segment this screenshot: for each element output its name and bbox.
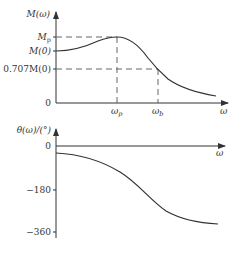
phase-x-axis-label: ω [216,148,224,158]
phase-m360-label: −360 [26,227,51,237]
magnitude-zero-label: 0 [45,98,51,108]
wp-label: ωp [111,106,123,118]
magnitude-plot: M(ω) Mp M(0) 0.707M(0) 0 ωp ωb ω [3,9,228,118]
m707-label: 0.707M(0) [3,64,51,74]
mp-label: Mp [37,32,51,44]
m0-label: M(0) [28,46,51,56]
phase-curve [56,153,218,224]
phase-y-axis-label: θ(ω)/(°) [17,125,52,135]
phase-zero-label: 0 [45,141,51,151]
magnitude-curve [56,37,216,96]
wb-label: ωb [152,106,164,118]
magnitude-y-axis-label: M(ω) [25,9,50,19]
phase-plot: θ(ω)/(°) 0 −180 −360 ω [17,125,225,238]
frequency-response-diagram: M(ω) Mp M(0) 0.707M(0) 0 ωp ωb ω θ(ω)/(°… [0,0,238,255]
phase-m180-label: −180 [26,185,51,195]
magnitude-x-axis-label: ω [220,106,228,116]
